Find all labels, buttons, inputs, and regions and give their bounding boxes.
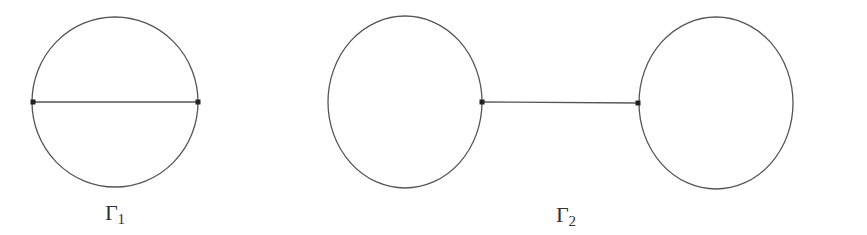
vertex — [480, 100, 485, 105]
graph-gamma1 — [31, 17, 201, 187]
vertex — [31, 100, 36, 105]
label-gamma2: Γ2 — [556, 202, 576, 230]
vertex — [196, 100, 201, 105]
graph-gamma2 — [328, 16, 793, 189]
graph-diagram — [0, 0, 867, 235]
loop-circle — [328, 16, 482, 188]
edge — [482, 102, 638, 103]
loop-circle — [639, 17, 793, 189]
label-gamma1: Γ1 — [105, 200, 125, 228]
vertex — [636, 101, 641, 106]
